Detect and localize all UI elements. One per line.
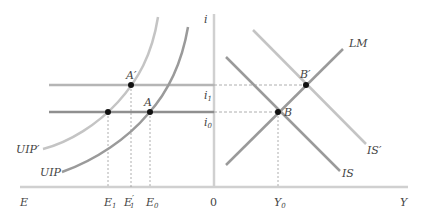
point-E1-intersection <box>105 109 111 115</box>
point-B <box>275 109 281 115</box>
uip-prime-curve <box>43 17 158 149</box>
label-B-prime: B′ <box>299 68 311 81</box>
axis-label-Y: Y <box>400 196 409 209</box>
label-Y0: Y0 <box>274 196 286 210</box>
label-is: IS <box>341 167 354 180</box>
point-B-prime <box>303 82 309 88</box>
label-B: B <box>283 106 292 119</box>
label-E1: E1 <box>103 196 117 210</box>
label-A-prime: A′ <box>125 69 137 82</box>
label-i1: i1 <box>204 89 212 103</box>
label-A: A <box>143 96 152 109</box>
diagram-canvas: A′ A B′ B UIP′ UIP LM IS′ IS i E Y 0 i1 … <box>0 0 426 219</box>
origin-label: 0 <box>210 196 217 209</box>
point-A <box>147 109 153 115</box>
label-E0: E0 <box>145 196 159 210</box>
label-uip: UIP <box>40 166 62 179</box>
uip-curve <box>62 27 188 172</box>
label-lm: LM <box>348 37 368 50</box>
is-curve <box>226 57 340 171</box>
label-is-prime: IS′ <box>366 144 382 157</box>
label-uip-prime: UIP′ <box>16 143 40 156</box>
axis-label-E: E <box>19 196 28 209</box>
point-A-prime <box>128 82 134 88</box>
axis-label-i: i <box>204 13 208 26</box>
label-E1-prime: E′1 <box>123 194 135 210</box>
label-i0: i0 <box>204 116 213 130</box>
